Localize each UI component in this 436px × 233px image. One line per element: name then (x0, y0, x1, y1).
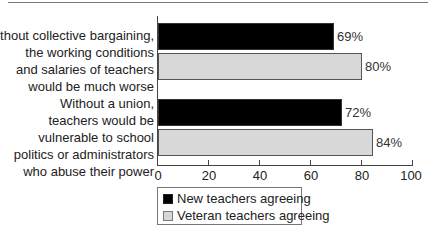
label-line: Without a union, (14, 95, 154, 112)
label-line: teachers would be (14, 112, 154, 129)
x-tick-label: 80 (355, 168, 369, 183)
label-line: vulnerable to school (14, 129, 154, 146)
x-tick-label: 0 (154, 168, 161, 183)
value-label: 69% (337, 29, 363, 44)
label-line: the working conditions (0, 44, 154, 61)
value-label: 80% (365, 59, 391, 74)
value-label: 84% (376, 135, 402, 150)
x-tick-label: 20 (202, 168, 216, 183)
x-axis-line (157, 165, 413, 166)
legend-label: Veteran teachers agreeing (177, 208, 330, 223)
x-tick-label: 60 (304, 168, 318, 183)
category-label-1: Without collective bargaining, the worki… (0, 27, 154, 95)
label-line: would be much worse (0, 78, 154, 95)
legend-item-new: New teachers agreeing (163, 191, 311, 206)
legend-swatch-black (163, 194, 173, 204)
label-line: who abuse their power (14, 163, 154, 180)
top-rule (8, 2, 428, 3)
legend: New teachers agreeing Veteran teachers a… (157, 187, 302, 225)
bar-veteran-teachers-cat2 (158, 129, 373, 156)
label-line: and salaries of teachers (0, 61, 154, 78)
x-tick (310, 160, 311, 166)
x-tick (361, 160, 362, 166)
x-tick (157, 160, 158, 166)
value-label: 72% (345, 105, 371, 120)
legend-swatch-gray (163, 211, 173, 221)
label-line: politics or administrators (14, 146, 154, 163)
x-tick-label: 40 (253, 168, 267, 183)
x-tick (208, 160, 209, 166)
x-tick (412, 160, 413, 166)
bar-new-teachers-cat2 (158, 99, 342, 126)
legend-label: New teachers agreeing (177, 191, 311, 206)
category-label-2: Without a union, teachers would be vulne… (14, 95, 154, 180)
bar-veteran-teachers-cat1 (158, 53, 362, 80)
x-tick-label: 100 (400, 168, 422, 183)
x-tick (259, 160, 260, 166)
bar-new-teachers-cat1 (158, 23, 334, 50)
label-line: Without collective bargaining, (0, 27, 154, 44)
legend-item-veteran: Veteran teachers agreeing (163, 208, 330, 223)
